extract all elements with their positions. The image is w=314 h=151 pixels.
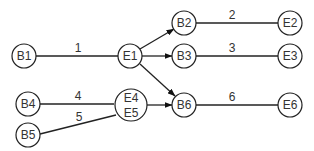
svg-text:E1: E1 <box>123 49 138 63</box>
edge-6: 6 <box>196 90 278 105</box>
edge-label-1: 1 <box>75 41 82 55</box>
svg-text:B3: B3 <box>177 49 192 63</box>
edge-2: 2 <box>196 8 278 23</box>
node-e1: E1 <box>118 44 142 68</box>
svg-text:B4: B4 <box>21 97 36 111</box>
edge-3: 3 <box>196 41 278 56</box>
svg-text:E5: E5 <box>124 106 139 120</box>
node-b3: B3 <box>172 44 196 68</box>
edge-5: 5 <box>40 110 116 134</box>
svg-text:B1: B1 <box>17 49 32 63</box>
dependency-diagram: 1 2 3 4 5 6 B1 E1 B2 <box>0 0 314 151</box>
edge-label-6: 6 <box>229 90 236 104</box>
svg-text:E6: E6 <box>283 98 298 112</box>
node-e4-e5: E4 E5 <box>115 89 147 121</box>
svg-text:B6: B6 <box>177 98 192 112</box>
edge-label-4: 4 <box>75 89 82 103</box>
arrow-e1-b6 <box>140 64 175 96</box>
svg-text:E3: E3 <box>283 49 298 63</box>
node-b5: B5 <box>16 123 40 147</box>
node-e3: E3 <box>278 44 302 68</box>
node-b4: B4 <box>16 92 40 116</box>
arrow-e1-b2 <box>140 29 174 49</box>
svg-text:E4: E4 <box>124 91 139 105</box>
svg-text:E2: E2 <box>283 16 298 30</box>
svg-text:B5: B5 <box>21 128 36 142</box>
node-e2: E2 <box>278 11 302 35</box>
svg-text:B2: B2 <box>177 16 192 30</box>
edge-label-5: 5 <box>76 110 83 124</box>
edge-label-2: 2 <box>229 8 236 22</box>
edge-label-3: 3 <box>229 41 236 55</box>
edge-4: 4 <box>40 89 114 104</box>
node-b6: B6 <box>172 93 196 117</box>
node-b1: B1 <box>12 44 36 68</box>
edge-1: 1 <box>36 41 118 56</box>
node-b2: B2 <box>172 11 196 35</box>
node-e6: E6 <box>278 93 302 117</box>
